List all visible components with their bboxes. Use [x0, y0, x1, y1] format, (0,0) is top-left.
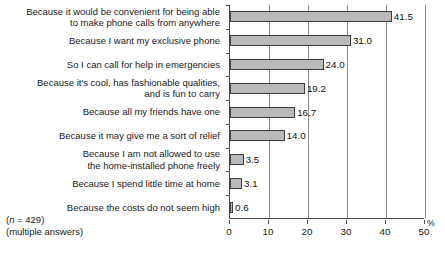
bar-value-label: 3.5	[246, 154, 260, 165]
gridline-40	[386, 5, 387, 218]
x-tick-label-0: 0	[226, 226, 231, 238]
category-label: So I can call for help in emergencies	[2, 59, 220, 70]
gridline-50	[425, 5, 426, 218]
bar-value-label: 14.0	[287, 130, 306, 141]
bar-value-label: 3.1	[244, 178, 258, 189]
y-tick-mark	[226, 195, 230, 196]
bar-value-label: 24.0	[326, 59, 345, 70]
category-label: Because I spend little time at home	[2, 178, 220, 189]
x-tick-label-20: 20	[302, 226, 313, 238]
bar	[230, 154, 244, 165]
plot-area: 41.531.024.019.216.714.03.53.10.6	[229, 5, 424, 219]
y-tick-mark	[226, 76, 230, 77]
bar	[230, 107, 295, 118]
category-label: Because I am not allowed to use the home…	[2, 148, 220, 170]
footnote: (n = 429) (multiple answers)	[6, 214, 83, 239]
bar-value-label: 19.2	[307, 83, 326, 94]
y-tick-mark	[226, 124, 230, 125]
bar	[230, 11, 392, 22]
y-tick-mark	[226, 100, 230, 101]
x-tick-mark-0	[229, 220, 230, 224]
x-axis-unit-label: %	[427, 218, 435, 228]
bar	[230, 130, 285, 141]
x-tick-label-40: 40	[380, 226, 391, 238]
bar-value-label: 0.6	[235, 202, 249, 213]
chart-figure: Because it would be convenient for being…	[0, 0, 445, 254]
category-label: Because all my friends have one	[2, 106, 220, 117]
x-tick-mark-30	[346, 220, 347, 224]
bar-value-label: 31.0	[353, 35, 372, 46]
x-tick-mark-10	[268, 220, 269, 224]
footnote-sample-size: (n = 429)	[6, 214, 83, 226]
y-tick-mark	[226, 5, 230, 6]
bar	[230, 178, 242, 189]
bar	[230, 59, 324, 70]
y-tick-mark	[226, 171, 230, 172]
category-label: Because it's cool, has fashionable quali…	[2, 77, 220, 99]
y-tick-mark	[226, 29, 230, 30]
x-tick-mark-50	[424, 220, 425, 224]
x-tick-label-10: 10	[263, 226, 274, 238]
bar-value-label: 41.5	[394, 11, 413, 22]
footnote-multiple-answers: (multiple answers)	[6, 226, 83, 238]
category-label: Because the costs do not seem high	[2, 202, 220, 213]
x-tick-mark-40	[385, 220, 386, 224]
y-tick-mark	[226, 53, 230, 54]
category-label: Because I want my exclusive phone	[2, 35, 220, 46]
x-tick-label-30: 30	[341, 226, 352, 238]
bar-value-label: 16.7	[297, 107, 316, 118]
bar	[230, 83, 305, 94]
y-tick-mark	[226, 148, 230, 149]
category-label: Because it may give me a sort of relief	[2, 130, 220, 141]
bar	[230, 35, 351, 46]
footnote-sample-value: = 429)	[14, 214, 44, 225]
x-tick-mark-20	[307, 220, 308, 224]
x-axis: 01020304050	[229, 220, 424, 240]
category-label: Because it would be convenient for being…	[2, 6, 220, 28]
bar	[230, 202, 233, 213]
category-label-column: Because it would be convenient for being…	[0, 5, 224, 219]
